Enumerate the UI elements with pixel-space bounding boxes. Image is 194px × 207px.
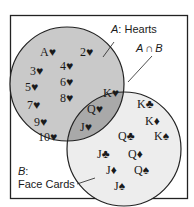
card-a-only: 8♥ — [60, 91, 73, 105]
card-intersection: J♥ — [80, 120, 92, 134]
card-intersection: Q♥ — [87, 102, 103, 116]
card-a-only: 3♥ — [30, 64, 43, 78]
card-b-only: K♠ — [154, 129, 170, 143]
svg-text:A∩B: A∩B — [135, 42, 163, 54]
intersection-label-b: B — [155, 42, 162, 54]
card-a-only: A♥ — [40, 45, 56, 59]
card-a-only: 5♥ — [25, 80, 38, 94]
set-b-name: Face Cards — [18, 178, 75, 190]
set-a-name: : Hearts — [118, 23, 157, 35]
card-b-only: K♣ — [137, 97, 154, 111]
svg-text:B:: B: — [18, 165, 28, 177]
card-b-only: J♠ — [114, 179, 126, 193]
card-a-only: 4♥ — [60, 59, 73, 73]
card-a-only: 10♥ — [38, 130, 57, 144]
set-a-letter: A — [110, 23, 118, 35]
intersection-label-a: A — [135, 42, 143, 54]
card-a-only: 6♥ — [60, 75, 73, 89]
intersection-symbol: ∩ — [145, 42, 153, 54]
card-b-only: J♣ — [97, 147, 110, 161]
card-a-only: 7♥ — [27, 98, 40, 112]
set-b-letter: B — [18, 165, 25, 177]
card-b-only: Q♣ — [118, 129, 135, 143]
svg-text:A: Hearts: A: Hearts — [110, 23, 157, 35]
card-a-only: 2♥ — [80, 45, 93, 59]
set-b-colon: : — [25, 165, 28, 177]
card-b-only: Q♠ — [134, 163, 150, 177]
card-b-only: K♦ — [145, 114, 160, 128]
card-a-only: 9♥ — [34, 115, 47, 129]
card-b-only: J♦ — [106, 163, 117, 177]
venn-diagram: A: Hearts A∩B B: Face Cards A♥ 2♥ 3♥ 4♥ … — [0, 0, 194, 207]
card-intersection: K♥ — [103, 86, 119, 100]
card-b-only: Q♦ — [128, 147, 143, 161]
